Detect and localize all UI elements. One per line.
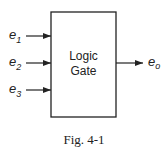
svg-text:e2: e2 [9,54,21,72]
input-2: e2 [9,54,51,72]
svg-text:e3: e3 [9,81,21,99]
input-1: e1 [9,27,51,45]
logic-gate-diagram: Logic Gate e1 e2 e3 eo Fig. 4-1 [0,0,168,157]
input-3: e3 [9,81,51,99]
gate-label-line2: Gate [70,64,96,78]
figure-caption: Fig. 4-1 [63,132,104,147]
gate-label-line1: Logic [69,49,98,63]
svg-text:eo: eo [148,54,160,71]
output: eo [116,54,160,71]
svg-text:e1: e1 [9,27,21,45]
